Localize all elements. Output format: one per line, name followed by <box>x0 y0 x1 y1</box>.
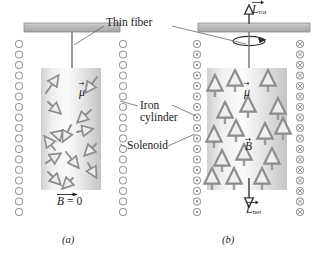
caption-panel-a: (a) <box>62 234 74 245</box>
label-iron-cylinder: Iron cylinder <box>140 99 178 123</box>
panel-a-graphics <box>16 23 127 216</box>
panel-b-graphics <box>194 6 311 216</box>
solenoid-coil-a-left <box>16 41 23 216</box>
vector-label-l-net: Lnet <box>246 203 261 216</box>
solenoid-coil-a-right <box>120 41 127 216</box>
b-symbol-a: B <box>57 195 64 207</box>
vector-label-mu-a: μ <box>79 85 85 100</box>
l-net-symbol: L <box>246 203 252 215</box>
label-iron-line2: cylinder <box>140 111 178 123</box>
vector-label-mu-b: μ <box>244 85 250 100</box>
l-rot-symbol: L <box>252 3 258 15</box>
caption-panel-b: (b) <box>222 234 234 245</box>
physics-figure: Thin fiber Iron cylinder Solenoid μ B = … <box>0 0 316 261</box>
figure-graphics <box>0 0 316 261</box>
vector-label-b-b: B <box>245 140 252 152</box>
mu-symbol-a: μ <box>79 85 85 100</box>
l-net-subscript: net <box>252 208 261 216</box>
support-bar-b <box>198 23 310 32</box>
label-iron-line1: Iron <box>140 99 159 111</box>
b-zero-value: = 0 <box>67 195 82 207</box>
label-solenoid: Solenoid <box>127 139 168 151</box>
leader-solenoid-right <box>168 134 195 146</box>
vector-label-l-rot: Lrot <box>252 3 267 16</box>
l-rot-subscript: rot <box>258 8 266 16</box>
mu-symbol-b: μ <box>244 85 250 100</box>
label-thin-fiber: Thin fiber <box>106 16 152 28</box>
b-symbol-b: B <box>245 140 252 152</box>
vector-label-b-zero: B = 0 <box>57 195 82 207</box>
